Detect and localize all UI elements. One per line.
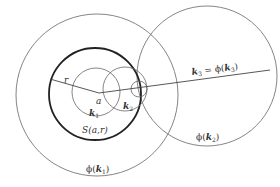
label-r: r (64, 75, 69, 85)
circle-phi-k1 (16, 14, 178, 176)
ray-line (99, 70, 270, 93)
label-S-a-r: S(a,r) (82, 125, 108, 135)
label-a: a (96, 96, 101, 106)
diagram-canvas: r a k1 k2 S(a,r) k3 = ϕ(k3) ϕ(k2) ϕ(k1) (0, 0, 280, 187)
label-phi-k1: ϕ(k1) (86, 164, 109, 175)
label-phi-k2: ϕ(k2) (196, 132, 219, 143)
label-k2: k2 (123, 101, 133, 112)
circle-phi-k2 (137, 6, 277, 146)
label-k1: k1 (89, 108, 99, 119)
